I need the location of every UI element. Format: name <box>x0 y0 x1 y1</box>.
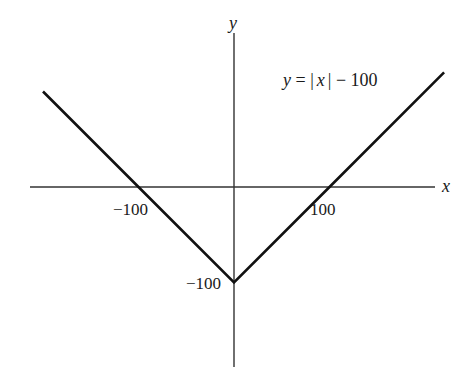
y-axis-label: y <box>229 14 237 32</box>
chart-canvas <box>0 0 474 381</box>
eq-x: x <box>314 70 328 90</box>
x-tick-label-100: 100 <box>310 201 336 218</box>
function-graph-line <box>43 72 444 282</box>
y-tick-label-neg100: −100 <box>186 275 221 292</box>
eq-rest: − 100 <box>336 70 378 90</box>
eq-y: y <box>283 70 291 90</box>
eq-abs-close: | <box>328 70 332 90</box>
function-equation-label: y = |x| − 100 <box>283 71 378 89</box>
x-axis-label: x <box>442 177 450 195</box>
x-tick-label-neg100: −100 <box>113 201 148 218</box>
eq-equals: = <box>296 70 306 90</box>
